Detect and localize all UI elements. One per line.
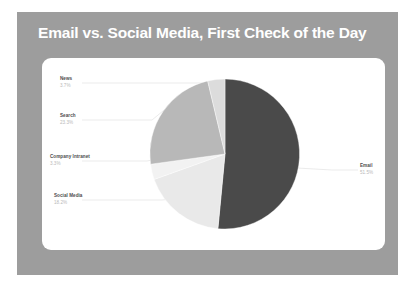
pie-label-search: Search 23.3% xyxy=(60,113,76,126)
pie-label-news-percent: 3.7% xyxy=(60,83,72,89)
slide-root: Email vs. Social Media, First Check of t… xyxy=(0,0,416,293)
pie-label-search-name: Search xyxy=(60,113,76,119)
pie-slice-email xyxy=(218,79,300,229)
slide-panel: Email vs. Social Media, First Check of t… xyxy=(17,12,398,275)
pie-label-email-percent: 51.5% xyxy=(360,170,373,176)
pie-label-company-intranet-name: Company Intranet xyxy=(50,154,90,160)
pie-label-social-media: Social Media 18.2% xyxy=(54,193,82,206)
pie-label-email: Email 51.5% xyxy=(360,163,373,176)
pie-label-search-percent: 23.3% xyxy=(60,120,76,126)
pie-chart: News 3.7% Search 23.3% Company Intranet … xyxy=(42,58,385,250)
pie-label-company-intranet-percent: 3.3% xyxy=(50,161,90,167)
pie-label-social-media-percent: 18.2% xyxy=(54,200,82,206)
pie-slices xyxy=(150,79,300,229)
page-title: Email vs. Social Media, First Check of t… xyxy=(38,24,383,42)
pie-label-news-name: News xyxy=(60,76,72,82)
pie-label-news: News 3.7% xyxy=(60,76,72,89)
chart-card: News 3.7% Search 23.3% Company Intranet … xyxy=(42,58,385,250)
pie-label-social-media-name: Social Media xyxy=(54,193,82,199)
pie-label-company-intranet: Company Intranet 3.3% xyxy=(50,154,90,167)
pie-label-email-name: Email xyxy=(360,163,373,169)
leader-line-news xyxy=(82,81,218,83)
pie-chart-svg xyxy=(42,58,385,250)
leader-line-email xyxy=(297,168,358,170)
